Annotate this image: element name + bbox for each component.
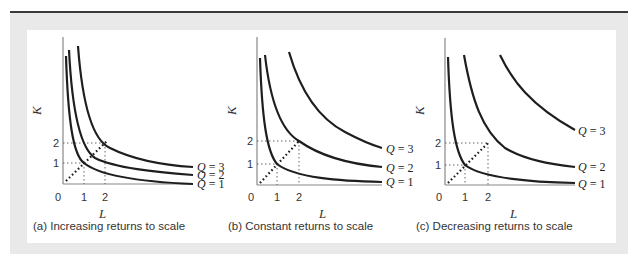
isoquant-label-q1: Q = 1 (197, 177, 224, 191)
panel-b: 0 1 2 1 2 L K Q = 3 Q = 2 Q = 1 (224, 37, 413, 221)
x-axis-label: L (318, 206, 326, 221)
isoquant-q3 (500, 55, 575, 130)
caption-panel-c: (c) Decreasing returns to scale (416, 220, 573, 232)
isoquant-label-q2: Q = 2 (386, 161, 413, 175)
y-tick-1: 1 (435, 159, 441, 171)
x-tick-2: 2 (296, 191, 302, 203)
y-tick-2: 2 (247, 135, 253, 147)
x-tick-1: 1 (274, 191, 280, 203)
scale-ray (448, 142, 489, 183)
y-tick-1: 1 (247, 158, 253, 170)
y-tick-1: 1 (53, 157, 59, 169)
x-tick-2: 2 (102, 191, 108, 203)
x-tick-2: 2 (485, 191, 491, 203)
x-tick-1: 1 (462, 191, 468, 203)
isoquant-label-q3: Q = 3 (386, 142, 413, 156)
isoquant-label-q2: Q = 2 (578, 160, 605, 174)
panel-a: 0 1 2 1 2 L K Q = 3 Q = 2 Q = 1 (29, 37, 224, 221)
origin-label: 0 (55, 191, 61, 203)
panel-c: 0 1 2 1 2 L K Q = 3 Q = 2 Q = 1 (412, 38, 605, 221)
x-axis-label: L (509, 206, 517, 221)
y-axis-label: K (224, 105, 239, 116)
caption-panel-a: (a) Increasing returns to scale (33, 220, 185, 232)
isoquant-label-q1: Q = 1 (386, 175, 413, 189)
x-tick-1: 1 (81, 191, 87, 203)
x-axis-label: L (98, 206, 106, 221)
y-axis-label: K (412, 105, 427, 116)
isoquant-label-q3: Q = 3 (578, 124, 605, 138)
origin-label: 0 (436, 191, 442, 203)
scale-ray (260, 140, 300, 183)
caption-panel-b: (b) Constant returns to scale (228, 220, 373, 232)
y-tick-2: 2 (53, 137, 59, 149)
isoquant-label-q1: Q = 1 (578, 177, 605, 191)
isoquant-q3 (78, 46, 193, 167)
origin-label: 0 (248, 191, 254, 203)
isoquant-q2 (265, 55, 382, 167)
y-tick-2: 2 (435, 137, 441, 149)
isoquant-figure: 0 1 2 1 2 L K Q = 3 Q = 2 Q = 1 0 1 2 1 … (0, 0, 628, 254)
isoquant-q1 (260, 58, 382, 182)
y-axis-label: K (29, 105, 44, 116)
isoquant-q3 (289, 52, 382, 148)
